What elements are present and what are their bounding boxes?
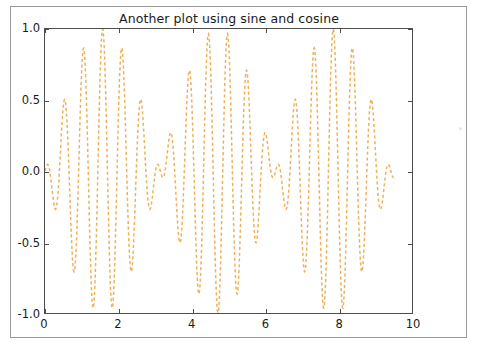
x-tick-mark (45, 309, 46, 313)
data-series-line (45, 29, 394, 313)
x-tick-mark (45, 29, 46, 33)
x-tick-label: 6 (262, 317, 269, 331)
plot-canvas (45, 29, 412, 313)
x-axis-tick-labels: 0246810 (44, 317, 413, 333)
data-series-group (45, 29, 394, 313)
plot-axes-area (44, 28, 413, 314)
stray-speck-artifact (459, 127, 462, 130)
figure-frame: Another plot using sine and cosine -1.0-… (10, 6, 467, 338)
y-tick-mark (408, 101, 412, 102)
y-tick-label: 0.0 (6, 164, 40, 178)
y-tick-label: -1.0 (6, 307, 40, 321)
chart-title: Another plot using sine and cosine (44, 11, 414, 26)
x-tick-label: 8 (336, 317, 343, 331)
y-tick-mark (45, 172, 49, 173)
x-tick-mark (340, 29, 341, 33)
x-tick-label: 4 (188, 317, 195, 331)
x-tick-label: 0 (40, 317, 47, 331)
x-tick-mark (119, 29, 120, 33)
y-tick-label: -0.5 (6, 236, 40, 250)
x-tick-mark (340, 309, 341, 313)
y-tick-mark (45, 101, 49, 102)
x-tick-mark (119, 309, 120, 313)
y-tick-mark (408, 172, 412, 173)
y-tick-mark (45, 244, 49, 245)
x-tick-mark (266, 309, 267, 313)
y-tick-mark (408, 29, 412, 30)
y-tick-label: 1.0 (6, 21, 40, 35)
x-tick-mark (266, 29, 267, 33)
y-tick-mark (408, 244, 412, 245)
x-tick-label: 2 (114, 317, 121, 331)
x-tick-label: 10 (406, 317, 421, 331)
x-tick-mark (193, 309, 194, 313)
x-tick-mark (193, 29, 194, 33)
y-tick-label: 0.5 (6, 93, 40, 107)
y-axis-tick-labels: -1.0-0.50.00.51.0 (11, 28, 40, 314)
